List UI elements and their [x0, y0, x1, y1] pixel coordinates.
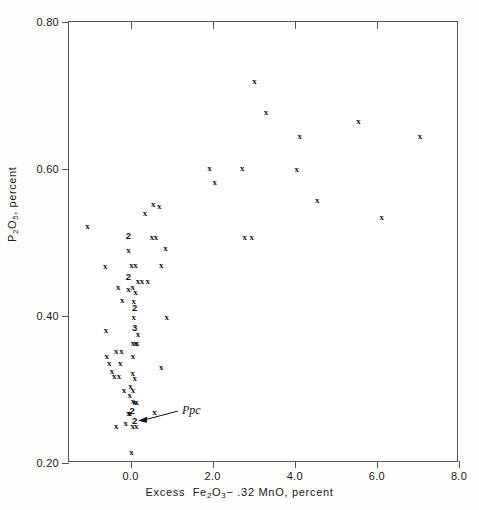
data-point: x: [134, 397, 139, 406]
data-point: x: [104, 325, 109, 334]
data-point: x: [297, 131, 302, 140]
x-tick-label: 0.0: [122, 470, 138, 482]
data-point: x: [85, 221, 90, 230]
y-tick-label: 0.40: [36, 310, 59, 322]
x-tick-label: 4.0: [287, 470, 303, 482]
y-axis-title-p: P: [6, 234, 18, 242]
x-tick-mark: [377, 461, 378, 468]
y-tick-mark: [62, 169, 69, 170]
data-point: x: [151, 199, 156, 208]
x-tick-mark-top: [213, 22, 214, 29]
y-tick-mark: [62, 463, 69, 464]
x-tick-label: 6.0: [369, 470, 385, 482]
data-point-cluster: 2: [132, 303, 137, 312]
y-axis-title-units: , percent: [6, 167, 18, 215]
data-point-cluster: 2: [126, 271, 131, 280]
ppc-annotation-label: Ppc: [182, 403, 201, 418]
data-point: x: [356, 117, 361, 126]
data-point: x: [116, 282, 121, 291]
data-point: x: [157, 201, 162, 210]
data-point: x: [242, 232, 247, 241]
data-point: x: [159, 260, 164, 269]
data-point: x: [118, 359, 123, 368]
data-point: x: [103, 262, 108, 271]
data-point: x: [112, 372, 117, 381]
x-axis-title-minus-term: − .32: [226, 486, 254, 498]
y-axis-title: P2O5, percent: [6, 167, 20, 242]
x-tick-label: 2.0: [205, 470, 221, 482]
data-point: x: [207, 163, 212, 172]
data-point: x: [140, 276, 145, 285]
data-point: x: [418, 131, 423, 140]
data-point: x: [164, 313, 169, 322]
data-point: x: [126, 245, 131, 254]
data-point: x: [249, 232, 254, 241]
x-axis-title-mno: MnO, percent: [259, 486, 334, 498]
data-point: x: [159, 363, 164, 372]
data-point: x: [240, 163, 245, 172]
y-tick-label: 0.60: [36, 163, 59, 175]
data-point: x: [152, 407, 157, 416]
y-axis-title-sub-2: 2: [11, 229, 20, 234]
x-tick-mark: [295, 461, 296, 468]
y-tick-mark: [62, 22, 69, 23]
data-point: x: [131, 339, 136, 348]
data-point: x: [120, 295, 125, 304]
y-tick-mark: [62, 316, 69, 317]
data-point: x: [114, 347, 119, 356]
data-point: x: [129, 447, 134, 456]
x-tick-mark-top: [131, 22, 132, 29]
data-point: x: [119, 347, 124, 356]
y-axis-title-sub-5: 5: [11, 215, 20, 220]
data-point: x: [123, 418, 128, 427]
plot-frame: xxxxxxxxxxxxxxx2x2xxxx2x3xxxxxxxxxxxxxxx…: [68, 21, 458, 462]
x-tick-label: 8.0: [451, 470, 467, 482]
y-axis-title-o: O: [6, 220, 18, 229]
plot-data-area: xxxxxxxxxxxxxxx2x2xxxx2x3xxxxxxxxxxxxxxx…: [69, 22, 457, 461]
x-tick-mark: [459, 461, 460, 468]
data-point: x: [252, 76, 257, 85]
x-axis-title: Excess Fe2O3− .32 MnO, percent: [0, 486, 479, 500]
data-point: x: [133, 260, 138, 269]
data-point: x: [134, 422, 139, 431]
data-point: x: [163, 244, 168, 253]
x-tick-mark: [213, 461, 214, 468]
x-axis-title-o: O: [212, 486, 221, 498]
y-tick-label: 0.80: [36, 16, 59, 28]
data-point: x: [143, 209, 148, 218]
data-point: x: [114, 422, 119, 431]
x-tick-mark-top: [295, 22, 296, 29]
data-point: x: [212, 178, 217, 187]
data-point-cluster: 2: [126, 231, 131, 240]
data-point: x: [295, 165, 300, 174]
x-tick-mark: [131, 461, 132, 468]
data-point: x: [380, 212, 385, 221]
x-axis-title-excess: Excess: [145, 486, 185, 498]
data-point: x: [315, 195, 320, 204]
data-point: x: [131, 352, 136, 361]
data-point: x: [146, 276, 151, 285]
data-point: x: [133, 288, 138, 297]
data-point: x: [154, 232, 159, 241]
x-tick-mark-top: [377, 22, 378, 29]
scatter-plot-figure: P2O5, percent Excess Fe2O3− .32 MnO, per…: [0, 0, 479, 510]
data-point: x: [264, 108, 269, 117]
y-tick-label: 0.20: [36, 457, 59, 469]
data-point: x: [122, 385, 127, 394]
x-axis-title-fe: Fe: [193, 486, 207, 498]
data-point: x: [117, 372, 122, 381]
